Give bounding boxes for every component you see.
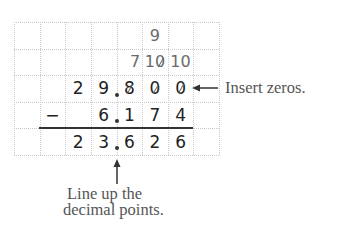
line-up-arrow-icon [111,159,123,185]
subtrahend-digit: 1 [117,102,143,129]
insert-zeros-arrow-icon [192,83,220,93]
difference-digit: 3 [91,128,117,155]
difference-digit: 2 [65,128,91,155]
grid-line-horizontal [14,22,219,23]
grid-paper: 97101029800−617423626 [14,22,219,155]
answer-rule-line [39,127,193,129]
minuend-digit: 0 [142,75,168,102]
difference-digit: 6 [117,128,143,155]
subtrahend-digit: 6 [91,102,117,129]
crossed-out-digit: 0 [155,52,165,71]
grid-line-horizontal [14,155,219,156]
minuend-digit: 9 [91,75,117,102]
minuend-digit: 2 [65,75,91,102]
minuend-digit: 0 [168,75,194,102]
crossed-out-digit: 0 [175,78,186,98]
subtrahend-digit: − [40,102,66,129]
minuend-digit: 8 [117,75,143,102]
decimal-point [115,93,119,97]
decimal-point [115,119,119,123]
borrow-top-digit: 9 [142,22,168,49]
subtrahend-digit: 4 [168,102,194,129]
subtraction-diagram: 97101029800−617423626 Insert zeros. Line… [0,0,346,236]
decimal-point [115,146,119,150]
borrow-digit: 7 [117,49,143,76]
line-up-label-line2: decimal points. [63,202,164,218]
digit: 1 [145,52,155,71]
borrow-digit: 10 [142,49,168,76]
difference-digit: 6 [168,128,194,155]
crossed-out-digit: 8 [124,78,135,98]
subtrahend-digit: 7 [142,102,168,129]
borrow-digit: 10 [168,49,194,76]
grid-line-vertical [40,22,41,155]
crossed-out-digit: 0 [150,78,161,98]
insert-zeros-label: Insert zeros. [225,80,306,96]
grid-line-vertical [14,22,15,155]
difference-digit: 2 [142,128,168,155]
